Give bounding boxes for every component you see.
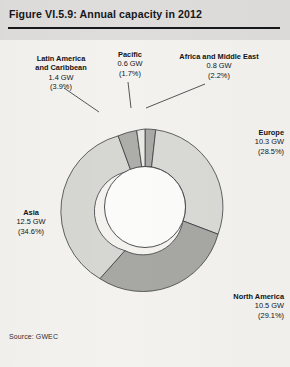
source-note: Source: GWEC <box>9 333 58 340</box>
slice-label-latin-america-value: 1.4 GW <box>18 73 104 82</box>
slice-label-africa-and-middle-east-percent: (2.2%) <box>158 71 280 80</box>
title-divider <box>8 27 280 29</box>
slice-label-pacific-name: Pacific <box>102 50 158 59</box>
slice-label-asia: Asia 12.5 GW (34.6%) <box>4 208 58 236</box>
leader-line-africa-me <box>146 84 205 108</box>
slice-label-latin-america-name-line1: Latin America <box>18 54 104 63</box>
figure-panel: Figure VI.5.9: Annual capacity in 2012 <box>0 0 290 367</box>
slice-label-asia-name: Asia <box>4 208 58 217</box>
donut-chart: Latin America and Caribbean 1.4 GW (3.9%… <box>0 40 290 327</box>
slice-label-africa-and-middle-east-name: Africa and Middle East <box>158 52 280 61</box>
slice-label-north-america-name: North America <box>198 292 284 301</box>
figure-header-band: Figure VI.5.9: Annual capacity in 2012 <box>0 0 290 40</box>
slice-label-africa-and-middle-east: Africa and Middle East 0.8 GW (2.2%) <box>158 52 280 80</box>
slice-label-north-america-value: 10.5 GW <box>198 301 284 310</box>
slice-label-europe-percent: (28.5%) <box>222 147 284 156</box>
slice-label-north-america: North America 10.5 GW (29.1%) <box>198 292 284 320</box>
slice-label-latin-america-percent: (3.9%) <box>18 82 104 91</box>
slice-label-asia-percent: (34.6%) <box>4 227 58 236</box>
slice-label-pacific-percent: (1.7%) <box>102 69 158 78</box>
leader-line-pacific <box>128 82 131 108</box>
donut-hole <box>105 167 186 248</box>
slice-label-europe-name: Europe <box>222 128 284 137</box>
slice-label-asia-value: 12.5 GW <box>4 217 58 226</box>
slice-label-north-america-percent: (29.1%) <box>198 311 284 320</box>
slice-label-pacific: Pacific 0.6 GW (1.7%) <box>102 50 158 78</box>
slice-label-latin-america: Latin America and Caribbean 1.4 GW (3.9%… <box>18 54 104 92</box>
slice-label-africa-and-middle-east-value: 0.8 GW <box>158 61 280 70</box>
page-title: Figure VI.5.9: Annual capacity in 2012 <box>9 8 202 20</box>
slice-label-europe: Europe 10.3 GW (28.5%) <box>222 128 284 156</box>
slice-label-pacific-value: 0.6 GW <box>102 59 158 68</box>
slice-label-latin-america-name-line2: and Caribbean <box>18 63 104 72</box>
slice-label-europe-value: 10.3 GW <box>222 137 284 146</box>
